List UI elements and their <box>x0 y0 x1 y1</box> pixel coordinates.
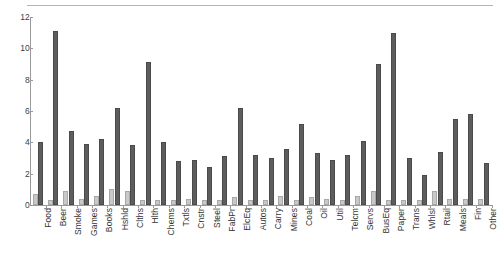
x-axis-category-label: Books <box>104 208 115 254</box>
x-axis-category-label: ElcEq <box>242 208 253 254</box>
bar-series-2 <box>453 119 458 205</box>
bar-group <box>123 17 138 205</box>
y-axis-tick-label: 0 <box>0 200 30 210</box>
x-axis-category-label: Hshld <box>120 208 131 254</box>
bar-series-2 <box>484 163 489 205</box>
x-axis-label-container: FoodBeerSmokeGamesBooksHshldClthsHlthChe… <box>31 208 492 254</box>
page-top-rule <box>27 5 493 6</box>
bar-series-2 <box>391 33 396 205</box>
x-axis-category-label: Carry <box>273 208 284 254</box>
y-axis-tick-label: 8 <box>0 75 30 85</box>
x-axis-category-label: Games <box>89 208 100 254</box>
bar-series-1 <box>340 200 345 205</box>
bar-group <box>108 17 123 205</box>
bar-series-1 <box>355 196 360 205</box>
x-axis-category-label: Fin <box>473 208 484 254</box>
bar-series-2 <box>284 149 289 205</box>
bar-group <box>354 17 369 205</box>
bar-series-2 <box>269 158 274 205</box>
x-axis-category-label: Whlsl <box>427 208 438 254</box>
bar-chart-figure: 024681012 FoodBeerSmokeGamesBooksHshldCl… <box>0 0 499 255</box>
bar-series-2 <box>238 108 243 205</box>
x-axis-category-label: Chems <box>166 208 177 254</box>
bar-group <box>169 17 184 205</box>
bar-series-2 <box>84 144 89 205</box>
bar-series-1 <box>401 200 406 205</box>
bar-group <box>446 17 461 205</box>
bar-series-1 <box>463 199 468 205</box>
bar-group <box>308 17 323 205</box>
x-axis-category-label: Oil <box>319 208 330 254</box>
bar-series-1 <box>155 200 160 205</box>
bar-group <box>415 17 430 205</box>
bar-series-2 <box>53 31 58 205</box>
x-axis-category-label: Steel <box>212 208 223 254</box>
x-axis-category-label: FabPr <box>227 208 238 254</box>
bar-series-1 <box>232 197 237 205</box>
bar-series-1 <box>294 200 299 205</box>
bar-group-container <box>31 17 492 205</box>
bar-series-1 <box>202 200 207 205</box>
bar-group <box>185 17 200 205</box>
bar-group <box>200 17 215 205</box>
bar-group <box>262 17 277 205</box>
x-axis-category-label: BusEq <box>381 208 392 254</box>
bar-series-2 <box>222 156 227 205</box>
x-axis-category-label: Hlth <box>150 208 161 254</box>
bar-group <box>369 17 384 205</box>
bar-group <box>246 17 261 205</box>
bar-group <box>31 17 46 205</box>
bar-series-2 <box>161 142 166 205</box>
x-axis-category-label: Clths <box>135 208 146 254</box>
bar-group <box>338 17 353 205</box>
y-axis-tick-label: 12 <box>0 12 30 22</box>
bar-series-2 <box>38 142 43 205</box>
bar-series-1 <box>94 196 99 205</box>
bar-group <box>461 17 476 205</box>
bar-series-2 <box>207 167 212 205</box>
bar-series-1 <box>248 200 253 205</box>
bar-series-2 <box>407 158 412 205</box>
bar-series-2 <box>130 145 135 205</box>
x-axis-category-label: Txtls <box>181 208 192 254</box>
bar-group <box>46 17 61 205</box>
bar-series-2 <box>345 155 350 205</box>
bar-series-2 <box>299 124 304 205</box>
bar-group <box>323 17 338 205</box>
bar-series-2 <box>176 161 181 205</box>
x-axis-category-label: Smoke <box>73 208 84 254</box>
x-axis-category-label: Telcm <box>350 208 361 254</box>
bar-series-2 <box>115 108 120 205</box>
x-axis-category-label: Meals <box>458 208 469 254</box>
x-axis-category-label: Rtail <box>442 208 453 254</box>
bar-series-2 <box>361 141 366 205</box>
bar-group <box>292 17 307 205</box>
bar-series-1 <box>417 200 422 205</box>
bar-group <box>77 17 92 205</box>
x-axis-category-label: Paper <box>396 208 407 254</box>
bar-series-1 <box>171 200 176 205</box>
bar-series-2 <box>330 160 335 205</box>
x-axis-category-label: Food <box>43 208 54 254</box>
bar-series-1 <box>79 199 84 205</box>
bar-series-1 <box>186 199 191 205</box>
bar-series-1 <box>324 199 329 205</box>
y-axis-tick-label: 6 <box>0 106 30 116</box>
bar-group <box>215 17 230 205</box>
bar-group <box>277 17 292 205</box>
bar-series-1 <box>48 200 53 205</box>
bar-series-2 <box>422 175 427 205</box>
x-axis-category-label: Beer <box>58 208 69 254</box>
x-axis-category-label: Coal <box>304 208 315 254</box>
bar-series-2 <box>468 114 473 205</box>
bar-group <box>92 17 107 205</box>
x-axis-category-label: Trans <box>411 208 422 254</box>
bar-series-2 <box>376 64 381 205</box>
bar-series-1 <box>278 196 283 205</box>
bar-series-2 <box>69 131 74 205</box>
bar-series-1 <box>263 200 268 205</box>
bar-group <box>231 17 246 205</box>
x-axis-category-label: Other <box>488 208 499 254</box>
x-axis-category-label: Servs <box>365 208 376 254</box>
bar-series-2 <box>253 155 258 205</box>
